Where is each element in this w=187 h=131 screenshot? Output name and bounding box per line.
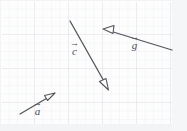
vector-a-label: → a [33,101,42,117]
vector-c-label: → c [70,41,79,57]
vector-g-arrowhead [103,26,114,34]
vector-c-arrowhead [100,79,109,91]
vector-g-shaft [110,31,172,50]
vector-g-label: → g [130,35,139,51]
vector-arrows-layer [0,0,187,131]
vector-diagram-figure: → a → c → g [0,0,187,131]
